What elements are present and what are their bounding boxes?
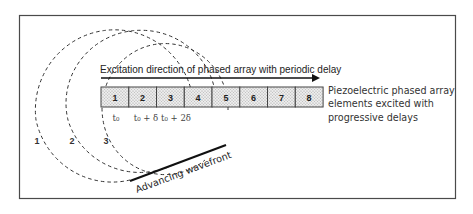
wavefront-label-2: 2 — [69, 136, 74, 146]
array-element-label-2: 2 — [140, 93, 145, 103]
time-label-element-3: t₀ + 2δ — [161, 113, 191, 123]
phased-array-diagram: Excitation direction of phased array wit… — [0, 0, 473, 214]
array-element-label-6: 6 — [251, 93, 256, 103]
array-element-label-3: 3 — [168, 93, 173, 103]
array-description: Piezoelectric phased array elements exci… — [328, 85, 455, 123]
excitation-direction-label: Excitation direction of phased array wit… — [100, 64, 341, 75]
array-element-label-4: 4 — [196, 93, 201, 103]
phased-array: 12345678 — [101, 87, 323, 107]
array-description-line-1: Piezoelectric phased array — [328, 85, 455, 96]
time-label-element-2: t₀ + δ — [134, 113, 158, 123]
wavefront-label-3: 3 — [103, 136, 108, 146]
array-element-label-7: 7 — [279, 93, 284, 103]
time-label-element-1: t₀ — [113, 113, 120, 123]
array-description-line-2: elements excited with — [328, 98, 434, 109]
array-element-label-1: 1 — [112, 93, 117, 103]
wavefront-label-1: 1 — [34, 136, 39, 146]
array-element-label-5: 5 — [223, 93, 228, 103]
array-description-line-3: progressive delays — [328, 112, 418, 123]
array-element-label-8: 8 — [307, 93, 312, 103]
